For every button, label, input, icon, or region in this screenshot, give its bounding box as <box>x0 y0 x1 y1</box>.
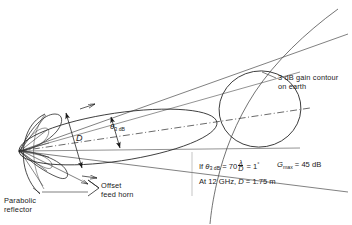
antenna-beam-diagram: θ3 dB D 3 dB gain contour on earth Offse… <box>0 0 352 225</box>
offset-feed-horn-shape <box>88 180 99 196</box>
earth-limb-arc <box>210 9 338 224</box>
offset-feed-horn-label: Offset feed horn <box>101 181 134 199</box>
gain-contour-label: 3 dB gain contour on earth <box>278 73 338 91</box>
main-lobe-ellipse <box>16 99 221 176</box>
boresight-axis <box>20 108 310 151</box>
beam-3db-edges <box>20 72 300 151</box>
beamwidth-angle-label: θ3 dB <box>110 122 125 132</box>
max-gain-annotation: Gmax = 45 dB <box>277 160 321 170</box>
parabolic-reflector-label: Parabolic reflector <box>4 196 36 214</box>
diameter-annotation: At 12 GHz, D = 1.75 m <box>199 177 276 187</box>
leader-lines <box>24 72 276 193</box>
aperture-diameter-label: D <box>76 133 83 143</box>
lambda-over-d-fraction: λD <box>238 160 243 173</box>
beamwidth-formula: If θ3 dB = 70λD = 1° <box>199 160 260 173</box>
diagram-canvas <box>0 0 352 225</box>
